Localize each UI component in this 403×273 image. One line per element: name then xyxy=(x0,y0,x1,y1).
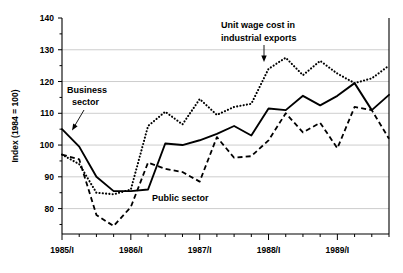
data-series-group xyxy=(62,58,389,226)
x-tick-label: 1989/I xyxy=(326,245,350,255)
y-tick-label: 120 xyxy=(40,77,54,87)
y-axis-title: Index (1984 = 100) xyxy=(10,89,20,162)
x-axis-tick-labels: 1985/I1986/I1987/I1988/I1989/I xyxy=(50,245,349,255)
x-tick-label: 1986/I xyxy=(119,245,143,255)
y-axis-tick-labels: 8090100110120130140 xyxy=(40,13,54,214)
x-tick-label: 1987/I xyxy=(188,245,212,255)
y-tick-label: 130 xyxy=(40,45,54,55)
unit-wage-cost-arrow-head xyxy=(261,56,266,63)
y-tick-label: 90 xyxy=(45,172,55,182)
business-sector-line2: sector xyxy=(72,97,100,107)
unit-wage-cost-line2: industrial exports xyxy=(221,33,297,43)
series-line-dashed xyxy=(62,107,389,226)
line-chart: 8090100110120130140 1985/I1986/I1987/I19… xyxy=(0,0,403,273)
business-sector-arrow-line xyxy=(74,110,84,127)
y-tick-label: 140 xyxy=(40,13,54,23)
unit-wage-cost-annotation: Unit wage cost in industrial exports xyxy=(221,20,297,62)
series-line-dotted xyxy=(62,58,389,195)
x-tick-label: 1988/I xyxy=(257,245,281,255)
unit-wage-cost-line1: Unit wage cost in xyxy=(221,20,295,30)
business-sector-annotation: Business sector xyxy=(67,85,107,131)
y-tick-label: 110 xyxy=(40,108,54,118)
x-tick-label: 1985/I xyxy=(50,245,74,255)
y-tick-label: 100 xyxy=(40,140,54,150)
public-sector-label: Public sector xyxy=(152,193,209,203)
business-sector-line1: Business xyxy=(67,85,107,95)
business-sector-arrow-head xyxy=(72,124,78,131)
y-tick-label: 80 xyxy=(45,204,55,214)
chart-container: 8090100110120130140 1985/I1986/I1987/I19… xyxy=(0,0,403,273)
x-axis-ticks xyxy=(62,234,389,240)
series-line-solid xyxy=(62,83,389,191)
y-axis-ticks xyxy=(58,18,62,224)
public-sector-annotation: Public sector xyxy=(152,193,209,203)
